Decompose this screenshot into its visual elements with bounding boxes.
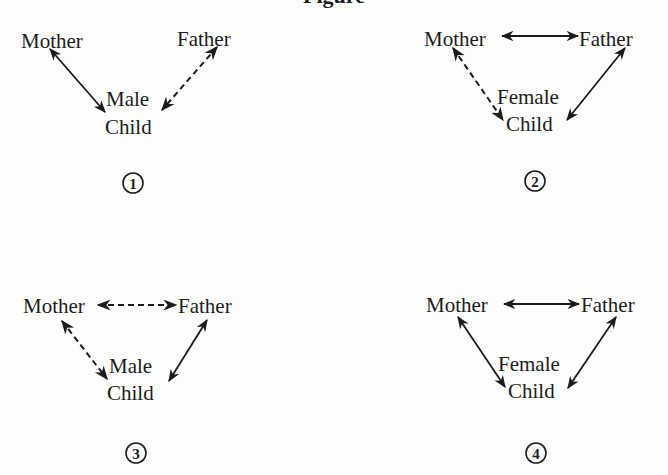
panel-number: 3 [132, 446, 140, 462]
family-diagrams: Mother Father Male Child 1 Mother Father… [0, 0, 668, 475]
child-label: Child [506, 112, 553, 136]
mother-child-arrow [50, 49, 105, 112]
child-gender-label: Male [109, 354, 152, 378]
panel-number-badge: 2 [525, 171, 545, 191]
father-label: Father [579, 27, 633, 51]
mother-label: Mother [424, 27, 486, 51]
child-gender-label: Female [498, 352, 560, 376]
mother-child-arrow [453, 48, 503, 120]
father-label: Father [177, 27, 231, 51]
panel-number: 4 [532, 446, 540, 462]
child-label: Child [508, 379, 555, 403]
panel-number: 2 [531, 174, 539, 190]
father-child-arrow [567, 48, 625, 120]
child-gender-label: Female [497, 85, 559, 109]
panel-number-badge: 3 [126, 443, 146, 463]
mother-label: Mother [21, 29, 83, 53]
father-child-arrow [162, 47, 217, 110]
father-label: Father [178, 294, 232, 318]
mother-label: Mother [426, 293, 488, 317]
child-label: Child [105, 115, 152, 139]
panel-number: 1 [129, 176, 137, 192]
father-child-arrow [169, 320, 207, 381]
father-label: Father [581, 293, 635, 317]
panel-2: Mother Father Female Child 2 [424, 27, 633, 191]
child-label: Child [107, 381, 154, 405]
mother-label: Mother [23, 294, 85, 318]
child-gender-label: Male [106, 87, 149, 111]
father-child-arrow [568, 317, 616, 388]
panel-3: Mother Father Male Child 3 [23, 294, 232, 463]
panel-number-badge: 4 [526, 443, 546, 463]
mother-child-arrow [62, 321, 107, 379]
panel-4: Mother Father Female Child 4 [426, 293, 635, 463]
panel-number-badge: 1 [123, 173, 143, 193]
panel-1: Mother Father Male Child 1 [21, 27, 231, 193]
